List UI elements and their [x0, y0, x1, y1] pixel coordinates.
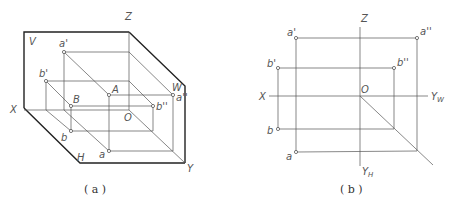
label-Z: Z [360, 13, 369, 24]
label-a: a [286, 151, 292, 162]
label-Z: Z [124, 11, 133, 22]
caption-b: ( b ) [340, 183, 363, 196]
point-b-dprime [151, 104, 154, 107]
label-X: X [258, 91, 267, 102]
point-b-dprime [392, 66, 395, 69]
label-a-prime: a' [59, 38, 68, 49]
point-a [107, 149, 110, 152]
label-Y: Y [187, 163, 194, 174]
label-X: X [9, 104, 18, 115]
point-A [107, 93, 110, 96]
a-prime-slant [64, 52, 109, 95]
label-a-prime: a' [287, 27, 296, 38]
label-a: a [99, 149, 105, 160]
panel-b: Z X O YW YH a' a'' b' b'' b a ( b ) [258, 13, 445, 196]
b-top-slant [129, 81, 153, 105]
projection-diagram: V Z W X Y H O A B a' b' a'' b'' b a ( a … [0, 0, 450, 207]
diagonal-45 [360, 96, 433, 165]
label-O: O [361, 84, 369, 95]
label-V: V [29, 36, 37, 47]
panel-a: V Z W X Y H O A B a' b' a'' b'' b a ( a … [9, 11, 194, 196]
label-Yh: YH [362, 166, 374, 179]
point-a-dprime [415, 36, 418, 39]
label-b-prime: b' [267, 58, 276, 69]
a-to-diagonal [296, 151, 417, 152]
point-a-prime [62, 50, 65, 53]
label-Yh-sub: H [368, 171, 374, 179]
b-prime-slant [46, 81, 71, 106]
label-b-dprime: b'' [397, 57, 409, 68]
label-b-dprime: b'' [156, 101, 168, 112]
label-b: b [267, 125, 273, 136]
point-a [294, 150, 297, 153]
a-top-slant [129, 52, 173, 95]
label-b: b [61, 132, 67, 143]
label-A: A [111, 84, 119, 95]
label-H: H [77, 152, 85, 163]
label-Yw: YW [431, 91, 445, 104]
point-b-prime [276, 66, 279, 69]
caption-a: ( a ) [84, 183, 106, 196]
point-a-dprime [171, 93, 174, 96]
point-b [69, 129, 72, 132]
label-a-dprime: a'' [420, 26, 432, 37]
label-O: O [124, 112, 132, 123]
label-a-dprime: a'' [176, 92, 188, 103]
y-axis [129, 110, 185, 163]
label-b-prime: b' [39, 68, 48, 79]
label-Yw-sub: W [437, 96, 445, 104]
label-B: B [73, 94, 80, 105]
point-b-prime [44, 79, 47, 82]
point-b [276, 127, 279, 130]
